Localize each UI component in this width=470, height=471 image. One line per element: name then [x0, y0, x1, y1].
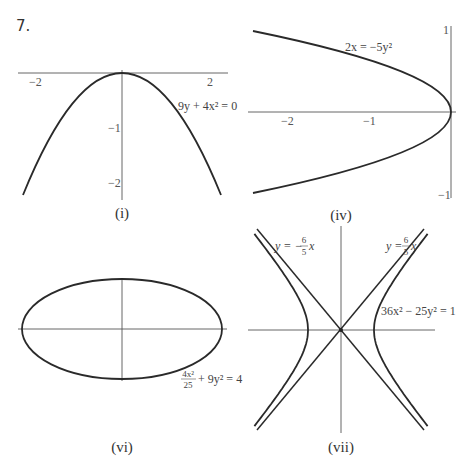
- panel-i-caption: (i): [115, 205, 129, 222]
- panel-i-ytick-neg1: −1: [108, 121, 121, 135]
- panel-iv-equation: 2x = −5y²: [345, 40, 393, 54]
- panel-iv-xtick-neg2: −2: [281, 114, 294, 128]
- asym-right-num: 6: [404, 235, 409, 245]
- asym-left-prefix: y = −: [274, 239, 303, 253]
- asym-left-num: 6: [302, 235, 307, 245]
- asym-right-den: 5: [404, 247, 409, 257]
- panel-i-ytick-neg2: −2: [108, 176, 121, 190]
- panel-iv-ytick-neg1: −1: [438, 188, 451, 202]
- panel-vii-origin-dot: [339, 328, 343, 332]
- panel-i-equation: 9y + 4x² = 0: [178, 99, 237, 113]
- panel-iv-caption: (iv): [330, 207, 352, 224]
- panel-vi-equation: 4x² 25 + 9y² = 4: [181, 369, 242, 390]
- panel-vii-asymptote-left-label: y = − 6 5 x: [274, 235, 315, 257]
- panel-iv-parabola: −2 −1 1 −1 2x = −5y² (iv): [248, 23, 456, 224]
- panel-vi-ellipse: 4x² 25 + 9y² = 4 (vi): [18, 278, 242, 456]
- panel-iv-xtick-neg1: −1: [363, 114, 376, 128]
- asym-left-den: 5: [302, 247, 307, 257]
- panel-vi-eq-denominator: 25: [184, 380, 194, 390]
- asym-right-prefix: y =: [385, 239, 402, 253]
- panel-i-xtick-2: 2: [207, 75, 213, 89]
- panel-i-parabola: −2 2 −1 −2 9y + 4x² = 0 (i): [18, 70, 237, 222]
- asym-right-x: x: [410, 239, 417, 253]
- panel-vi-eq-rest: + 9y² = 4: [198, 372, 242, 386]
- panel-iv-ytick-1: 1: [443, 23, 449, 37]
- panel-i-xtick-neg2: −2: [29, 75, 42, 89]
- panel-vii-equation: 36x² − 25y² = 1: [381, 304, 456, 318]
- panel-vi-eq-numerator: 4x²: [182, 369, 194, 379]
- panel-vii-hyperbola: y = − 6 5 x y = 6 5 x 36x² − 25y² = 1 (v…: [248, 226, 456, 456]
- asym-left-x: x: [308, 239, 315, 253]
- panel-vii-caption: (vii): [328, 439, 354, 456]
- panel-vi-caption: (vi): [111, 439, 133, 456]
